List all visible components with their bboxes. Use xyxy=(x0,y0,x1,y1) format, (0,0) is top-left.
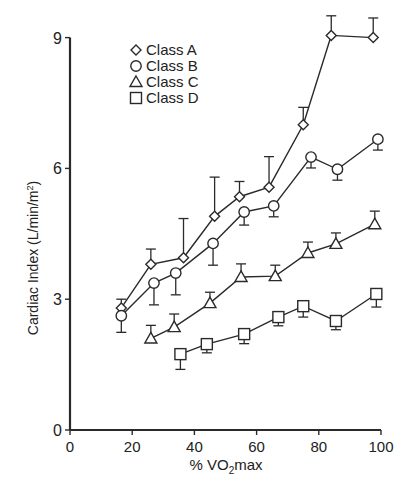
axes: 0204060801000369 xyxy=(53,30,393,455)
circle-marker xyxy=(149,278,159,288)
legend-item-class-b: Class B xyxy=(131,57,198,74)
triangle-marker xyxy=(145,332,157,343)
square-marker xyxy=(175,349,186,360)
square-marker xyxy=(239,329,250,340)
legend-label: Class D xyxy=(146,89,199,106)
x-tick-label: 100 xyxy=(368,438,393,455)
square-marker xyxy=(330,316,341,327)
x-tick-label: 40 xyxy=(186,438,203,455)
x-axis-label: % VO2max xyxy=(189,456,263,476)
legend-item-class-d: Class D xyxy=(131,89,199,106)
cardiac-index-chart: 0204060801000369 Class AClass BClass CCl… xyxy=(0,0,411,496)
x-tick-label: 0 xyxy=(66,438,74,455)
circle-marker xyxy=(239,207,249,217)
y-tick-label: 9 xyxy=(53,30,62,47)
circle-marker xyxy=(171,268,181,278)
circle-marker xyxy=(373,134,383,144)
circle-marker xyxy=(116,311,126,321)
diamond-marker xyxy=(264,182,274,192)
circle-marker xyxy=(306,152,316,162)
circle-marker xyxy=(269,201,279,211)
series-class-d xyxy=(175,288,382,369)
legend: Class AClass BClass CClass D xyxy=(130,41,199,106)
square-marker xyxy=(273,312,284,323)
diamond-marker xyxy=(368,33,378,43)
legend-label: Class B xyxy=(146,57,198,74)
legend-item-class-a: Class A xyxy=(131,41,197,58)
triangle-marker xyxy=(269,270,281,281)
legend-item-class-c: Class C xyxy=(130,73,199,90)
y-tick-label: 3 xyxy=(53,291,62,308)
diamond-marker xyxy=(326,30,336,40)
y-axis-label: Cardiac Index (L/min/m2) xyxy=(25,181,41,335)
circle-marker xyxy=(208,238,218,248)
y-tick-label: 0 xyxy=(53,422,62,439)
square-marker xyxy=(298,301,309,312)
square-marker xyxy=(371,288,382,299)
triangle-marker xyxy=(330,238,342,249)
x-tick-label: 60 xyxy=(248,438,265,455)
legend-label: Class C xyxy=(146,73,199,90)
series-class-b xyxy=(116,134,383,332)
series-class-c xyxy=(145,211,381,343)
square-marker xyxy=(201,339,212,350)
legend-label: Class A xyxy=(146,41,197,58)
legend-triangle-icon xyxy=(130,76,142,87)
triangle-marker xyxy=(369,218,381,229)
x-tick-label: 20 xyxy=(124,438,141,455)
triangle-marker xyxy=(168,321,180,332)
legend-square-icon xyxy=(131,93,142,104)
diamond-marker xyxy=(146,259,156,269)
circle-marker xyxy=(332,164,342,174)
x-tick-label: 80 xyxy=(310,438,327,455)
legend-diamond-icon xyxy=(131,45,141,55)
legend-circle-icon xyxy=(131,61,141,71)
y-tick-label: 6 xyxy=(53,160,62,177)
diamond-marker xyxy=(298,120,308,130)
